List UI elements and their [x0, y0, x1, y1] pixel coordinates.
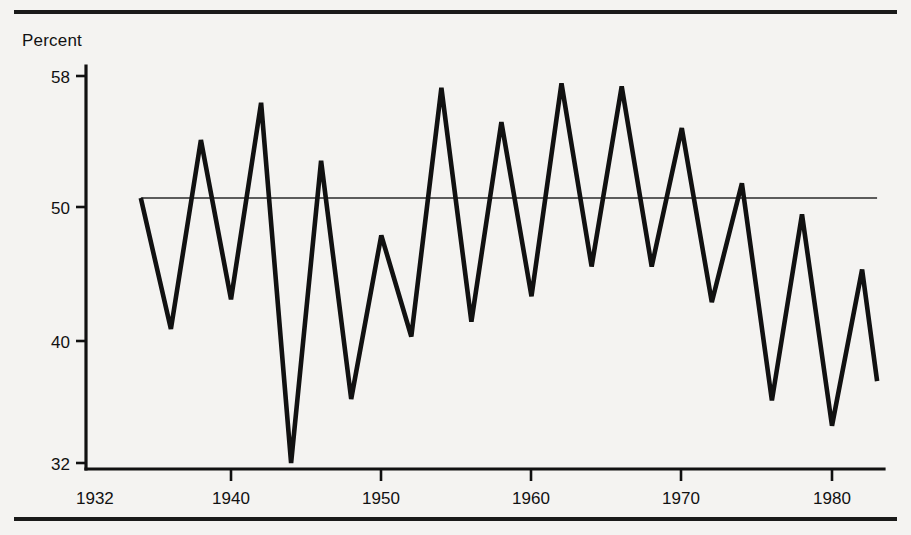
- x-tick-label-1980: 1980: [813, 489, 851, 508]
- y-tick-label-58: 58: [51, 68, 70, 87]
- data-series-line: [141, 83, 877, 463]
- x-tick-label-1932: 1932: [76, 489, 114, 508]
- y-tick-label-32: 32: [51, 455, 70, 474]
- x-tick-label-1940: 1940: [212, 489, 250, 508]
- figure-container: Percent 58 50 40 32 1932 1940 1950 1960 …: [0, 0, 911, 535]
- x-tick-label-1960: 1960: [512, 489, 550, 508]
- chart-svg: 58 50 40 32 1932 1940 1950 1960 1970 198…: [0, 0, 911, 535]
- y-tick-label-40: 40: [51, 333, 70, 352]
- x-tick-label-1970: 1970: [662, 489, 700, 508]
- x-tick-label-1950: 1950: [362, 489, 400, 508]
- y-tick-label-50: 50: [51, 199, 70, 218]
